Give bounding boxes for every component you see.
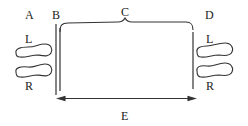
footprints-end-icon xyxy=(197,43,233,77)
label-d: D xyxy=(205,9,214,21)
left-foot-icon xyxy=(16,44,52,57)
distance-brace xyxy=(60,18,193,32)
distance-arrow xyxy=(58,97,195,101)
label-left-foot-start: L xyxy=(25,33,32,45)
left-foot-icon xyxy=(197,43,233,57)
right-foot-icon xyxy=(16,64,52,77)
label-left-foot-end: L xyxy=(206,33,213,45)
right-foot-icon xyxy=(197,63,233,77)
start-line xyxy=(56,24,60,95)
label-right-foot-start: R xyxy=(25,80,33,92)
footprints-start-icon xyxy=(16,44,52,77)
label-b: B xyxy=(52,9,60,21)
walking-test-diagram: A B C D E L R L R xyxy=(0,0,248,126)
label-c: C xyxy=(121,6,129,18)
label-e: E xyxy=(121,110,128,122)
label-right-foot-end: R xyxy=(206,80,214,92)
label-a: A xyxy=(25,9,34,21)
